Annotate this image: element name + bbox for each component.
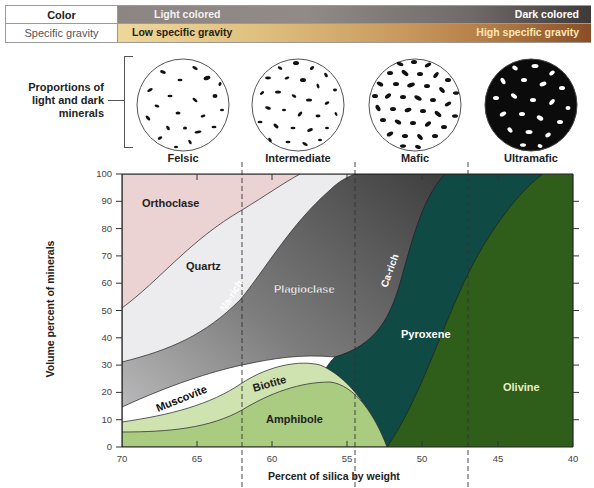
- texture-circles: [0, 48, 594, 168]
- intermediate-texture-icon: [252, 59, 344, 151]
- y-tick-label: 40: [86, 332, 112, 343]
- y-tick-label: 80: [86, 223, 112, 234]
- mafic-texture-icon: [369, 59, 461, 151]
- y-tick-label: 100: [86, 168, 112, 179]
- label-orthoclase: Orthoclase: [142, 197, 199, 209]
- specific-gravity-gradient-bar: Low specific gravity High specific gravi…: [118, 24, 591, 43]
- x-tick-label: 65: [182, 453, 212, 464]
- property-header-table: Color Light colored Dark colored Specifi…: [5, 5, 591, 45]
- label-olivine: Olivine: [503, 381, 540, 393]
- y-tick-label: 10: [86, 414, 112, 425]
- specific-gravity-row: Specific gravity Low specific gravity Hi…: [5, 24, 591, 43]
- y-axis-title: Volume percent of minerals: [44, 219, 56, 399]
- mineral-proportions-row: Proportions of light and dark minerals: [0, 48, 594, 168]
- color-row-label: Color: [5, 5, 118, 24]
- y-tick-label: 0: [86, 441, 112, 452]
- x-tick-label: 60: [257, 453, 287, 464]
- label-plagioclase: Plagioclase: [274, 283, 335, 295]
- label-quartz: Quartz: [186, 260, 221, 272]
- y-tick-label: 30: [86, 359, 112, 370]
- y-tick-label: 60: [86, 277, 112, 288]
- x-tick-label: 45: [483, 453, 513, 464]
- label-pyroxene: Pyroxene: [401, 328, 451, 340]
- x-tick-label: 50: [407, 453, 437, 464]
- color-row: Color Light colored Dark colored: [5, 5, 591, 24]
- specific-gravity-label: Specific gravity: [5, 24, 118, 43]
- label-amphibole: Amphibole: [266, 413, 323, 425]
- felsic-texture-icon: [137, 59, 229, 151]
- x-axis-title: Percent of silica by weight: [268, 470, 400, 482]
- mineral-composition-chart: Orthoclase Quartz Plagioclase Na-rich Ca…: [0, 160, 594, 488]
- x-tick-label: 55: [332, 453, 362, 464]
- x-tick-label: 40: [558, 453, 588, 464]
- y-tick-label: 70: [86, 250, 112, 261]
- y-tick-label: 20: [86, 386, 112, 397]
- y-tick-label: 50: [86, 305, 112, 316]
- ultramafic-texture-icon: [485, 59, 577, 151]
- y-tick-label: 90: [86, 195, 112, 206]
- x-tick-label: 70: [107, 453, 137, 464]
- chart-plot: Orthoclase Quartz Plagioclase Na-rich Ca…: [0, 160, 594, 488]
- high-specific-gravity-label: High specific gravity: [476, 26, 579, 38]
- light-colored-label: Light colored: [154, 8, 221, 20]
- low-specific-gravity-label: Low specific gravity: [132, 26, 232, 38]
- dark-colored-label: Dark colored: [515, 8, 579, 20]
- color-gradient-bar: Light colored Dark colored: [118, 5, 591, 24]
